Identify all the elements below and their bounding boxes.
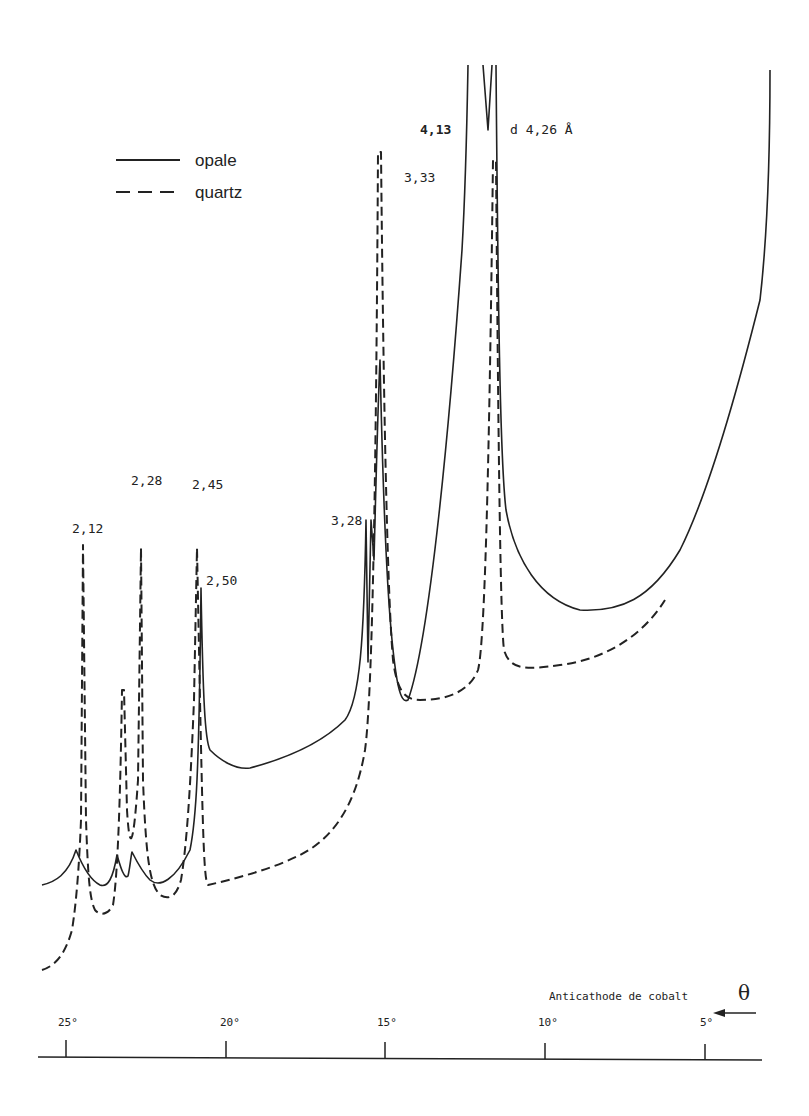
- peak-label-2-12: 2,12: [72, 521, 103, 536]
- peak-label-3-33: 3,33: [404, 170, 435, 185]
- axis-annotation: Anticathode de cobalt θ: [549, 981, 756, 1017]
- peak-label-2-50: 2,50: [206, 573, 237, 588]
- xrd-chart: opale quartz 2,12 2,28 2,45 2,50 3,28 3,…: [0, 0, 809, 1116]
- x-axis: 25° 20° 15° 10° 5°: [38, 1016, 762, 1060]
- peak-label-2-28: 2,28: [131, 473, 162, 488]
- tick-label-15: 15°: [377, 1016, 397, 1029]
- tick-label-25: 25°: [58, 1016, 78, 1029]
- peak-label-4-26: d 4,26 Å: [510, 122, 573, 137]
- theta-symbol: θ: [738, 981, 750, 1005]
- peak-label-3-28: 3,28: [331, 513, 362, 528]
- peak-label-2-45: 2,45: [192, 477, 223, 492]
- tick-label-5: 5°: [700, 1016, 713, 1029]
- tick-label-20: 20°: [220, 1016, 240, 1029]
- tick-label-10: 10°: [538, 1016, 558, 1029]
- peak-label-4-13: 4,13: [420, 122, 451, 137]
- legend-item-quartz: quartz: [116, 183, 242, 202]
- legend: opale quartz: [116, 151, 242, 202]
- legend-item-opale: opale: [116, 151, 237, 170]
- x-axis-line: [38, 1057, 762, 1060]
- direction-arrow-left-icon: [713, 1009, 756, 1017]
- quartz-curve: [42, 152, 665, 970]
- legend-label-quartz: quartz: [195, 183, 242, 202]
- anticathode-note: Anticathode de cobalt: [549, 990, 688, 1003]
- legend-label-opale: opale: [195, 151, 237, 170]
